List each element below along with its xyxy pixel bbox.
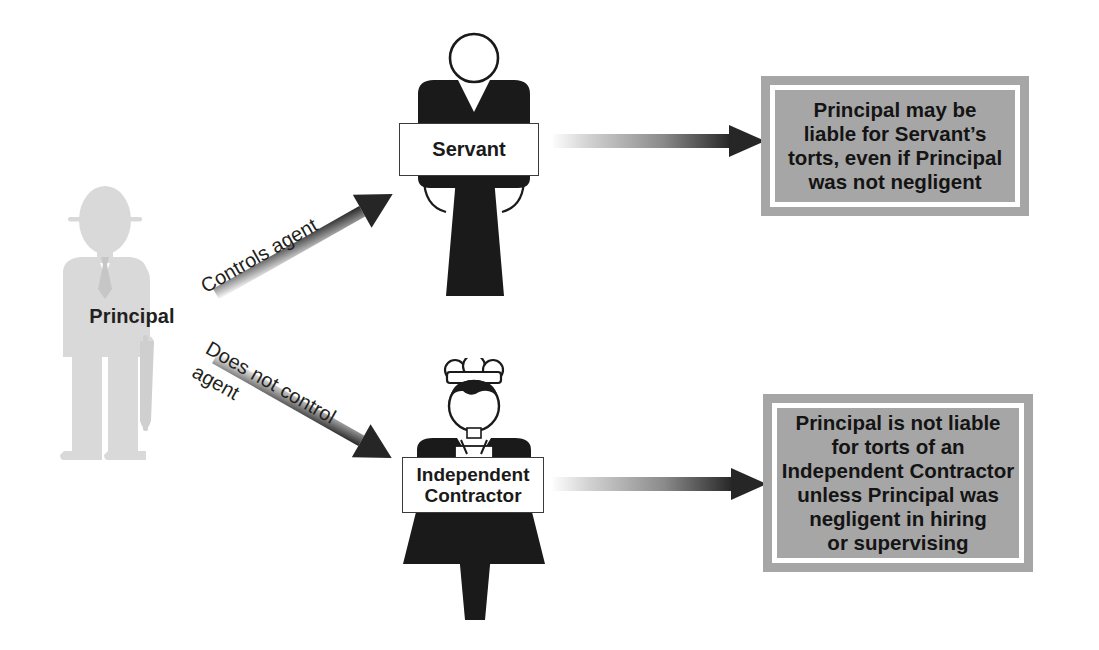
outcome-line: Principal may be: [788, 98, 1002, 122]
outcome-line: or supervising: [782, 531, 1014, 555]
ic-nameplate-label-line1: Independent: [417, 464, 530, 485]
ic-nameplate-label-line2: Contractor: [424, 485, 521, 506]
outcome-box-servant: Principal may be liable for Servant’s to…: [770, 85, 1020, 207]
outcome-line: torts, even if Principal: [788, 146, 1002, 170]
outcome-line: unless Principal was: [782, 483, 1014, 507]
servant-nameplate: Servant: [399, 123, 539, 176]
independent-contractor-nameplate: Independent Contractor: [402, 457, 544, 513]
outcome-line: liable for Servant’s: [788, 122, 1002, 146]
arrow-servant-to-outcome: [553, 122, 768, 162]
diagram-canvas: Principal Controls agent: [0, 0, 1099, 650]
arrow-contractor-to-outcome: [553, 465, 771, 505]
outcome-box-servant-text: Principal may be liable for Servant’s to…: [788, 98, 1002, 194]
outcome-line: was not negligent: [788, 170, 1002, 194]
outcome-box-contractor: Principal is not liable for torts of an …: [772, 403, 1024, 563]
outcome-line: Principal is not liable: [782, 411, 1014, 435]
principal-label: Principal: [52, 305, 212, 328]
outcome-box-contractor-text: Principal is not liable for torts of an …: [782, 411, 1014, 555]
outcome-line: for torts of an: [782, 435, 1014, 459]
servant-nameplate-label: Servant: [432, 138, 505, 160]
outcome-line: negligent in hiring: [782, 507, 1014, 531]
outcome-line: Independent Contractor: [782, 459, 1014, 483]
